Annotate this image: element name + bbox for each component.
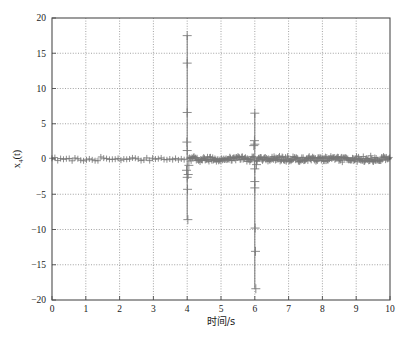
y-axis-title-argument: (t): [11, 149, 23, 159]
x-tick-label: 8: [320, 304, 325, 314]
residual-signal-scatter-chart: 012345678910 −20−15−10−505101520 时间/s x4…: [0, 0, 416, 341]
x-tick-label: 9: [354, 304, 359, 314]
x-tick-label: 4: [185, 304, 190, 314]
y-tick-label: 0: [41, 154, 46, 164]
y-tick-label: −20: [31, 295, 46, 305]
y-tick-label: −10: [31, 225, 46, 235]
x-tick-label: 1: [83, 304, 88, 314]
x-axis-title: 时间/s: [207, 315, 236, 327]
x-tick-label: 6: [252, 304, 257, 314]
x-tick-label: 2: [117, 304, 122, 314]
x-tick-label: 3: [151, 304, 156, 314]
x-tick-label: 10: [385, 304, 395, 314]
y-tick-label: 15: [37, 49, 47, 59]
x-tick-label: 5: [219, 304, 224, 314]
y-tick-label: 5: [41, 119, 46, 129]
y-tick-label: −15: [31, 260, 46, 270]
x-tick-label: 0: [50, 304, 55, 314]
chart-figure: 012345678910 −20−15−10−505101520 时间/s x4…: [0, 0, 416, 341]
y-tick-label: −5: [36, 190, 46, 200]
y-tick-label: 10: [37, 84, 47, 94]
x-tick-label: 7: [286, 304, 291, 314]
y-tick-label: 20: [37, 13, 47, 23]
